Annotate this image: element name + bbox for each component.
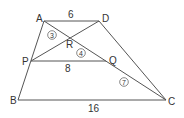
point-label-q: Q	[109, 55, 117, 66]
ratio-value: 4	[79, 50, 83, 57]
point-label-a: A	[36, 13, 43, 24]
trapezoid-diagram: 347 6816 ADPQRBC	[0, 0, 184, 118]
ratio-qc: 7	[120, 78, 129, 87]
point-label-c: C	[168, 96, 175, 107]
length-ad: 6	[68, 9, 74, 20]
length-bc: 16	[88, 103, 100, 114]
point-label-p: P	[22, 56, 29, 67]
point-label-r: R	[66, 39, 73, 50]
ratio-value: 7	[122, 79, 126, 86]
segment-pd	[31, 21, 99, 61]
segments	[18, 21, 166, 100]
point-label-d: D	[102, 13, 109, 24]
point-labels: ADPQRBC	[10, 13, 175, 107]
ratio-value: 3	[50, 32, 54, 39]
length-pq: 8	[65, 63, 71, 74]
ratio-rq: 4	[77, 49, 86, 58]
point-label-b: B	[10, 95, 17, 106]
ratio-ar: 3	[48, 31, 57, 40]
